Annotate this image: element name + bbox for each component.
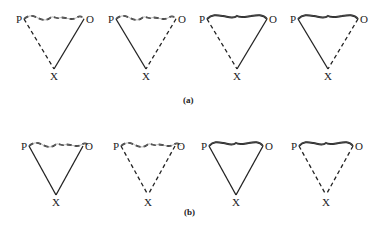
vertex-x-label: X [144,196,152,208]
vertex-o-label: O [178,13,186,25]
panel-b-caption: (b) [184,207,195,217]
vertex-p-label: P [113,140,119,152]
triangle-b4: P O X [291,140,363,208]
vertex-x-label: X [232,196,240,208]
vertex-o-label: O [360,13,368,25]
diagram: P O X P O X P O X P O X (a) P O X [0,0,381,233]
vertex-o-label: O [86,13,94,25]
vertex-p-label: P [108,13,114,25]
vertex-x-label: X [50,70,58,82]
triangle-a2: P O X [108,13,186,82]
vertex-o-label: O [269,13,277,25]
vertex-x-label: X [52,196,60,208]
triangle-b1: P O X [21,140,93,208]
vertex-x-label: X [233,70,241,82]
vertex-o-label: O [85,140,93,152]
triangle-b3: P O X [201,140,273,208]
triangle-a1: P O X [16,13,94,82]
panel-a-caption: (a) [183,95,194,105]
triangle-a4: P O X [290,13,368,82]
vertex-o-label: O [355,140,363,152]
vertex-p-label: P [290,13,296,25]
triangle-a3: P O X [199,13,277,82]
vertex-x-label: X [142,70,150,82]
vertex-p-label: P [16,13,22,25]
triangle-b2: P O X [113,140,185,208]
vertex-o-label: O [177,140,185,152]
vertex-x-label: X [324,70,332,82]
vertex-x-label: X [322,196,330,208]
vertex-o-label: O [265,140,273,152]
vertex-p-label: P [199,13,205,25]
vertex-p-label: P [201,140,207,152]
vertex-p-label: P [291,140,297,152]
vertex-p-label: P [21,140,27,152]
